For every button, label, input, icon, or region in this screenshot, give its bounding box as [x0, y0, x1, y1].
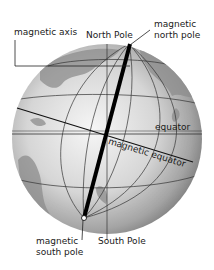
- magnetic-south-pole-label-line2: south pole: [36, 247, 83, 258]
- magnetic-north-pole-leader: [130, 30, 150, 45]
- magnetic-south-pole-marker: [82, 216, 87, 221]
- equator-label: equator: [155, 122, 190, 133]
- south-pole-label: South Pole: [98, 236, 146, 247]
- magnetic-south-pole-label-line1: magnetic: [36, 236, 78, 247]
- magnetic-north-pole-label-line1: magnetic: [154, 19, 196, 30]
- north-pole-label: North Pole: [86, 30, 133, 41]
- magnetic-north-pole-label-line2: north pole: [154, 30, 200, 41]
- magnetic-axis-label: magnetic axis: [14, 27, 77, 38]
